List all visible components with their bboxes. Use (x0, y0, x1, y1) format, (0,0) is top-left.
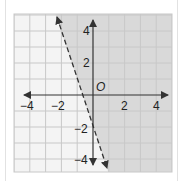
y-tick-label: 2 (83, 56, 90, 70)
y-tick-label: −2 (74, 122, 88, 136)
y-tick-label: 4 (83, 24, 90, 38)
x-tick-label: 2 (121, 99, 128, 113)
x-tick-label: −4 (20, 99, 34, 113)
x-tick-label: 4 (153, 99, 160, 113)
x-tick-label: −2 (51, 99, 65, 113)
y-tick-label: −4 (74, 153, 88, 167)
origin-label: O (96, 80, 105, 94)
inequality-graph: −4 −2 2 4 4 2 −2 −4 O (0, 0, 181, 181)
